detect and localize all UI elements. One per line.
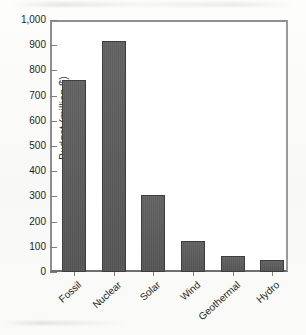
bar xyxy=(141,195,165,272)
y-axis-tick-label: 800 xyxy=(29,64,46,75)
plot-area: Budget (million $) 010020030040050060070… xyxy=(50,20,288,272)
bar-chart-figure: Budget (million $) 010020030040050060070… xyxy=(0,0,306,335)
y-axis-tick-label: 400 xyxy=(29,165,46,176)
x-axis-tick xyxy=(114,272,115,276)
x-axis-tick xyxy=(233,272,234,276)
bar xyxy=(260,260,284,272)
y-axis-tick-label: 100 xyxy=(29,241,46,252)
y-axis-tick: 800 xyxy=(50,70,57,71)
y-axis-tick: 1,000 xyxy=(50,20,57,21)
y-axis-tick: 300 xyxy=(50,196,57,197)
y-axis-tick-label: 600 xyxy=(29,115,46,126)
y-axis-tick: 900 xyxy=(50,45,57,46)
y-axis-tick-label: 1,000 xyxy=(21,14,46,25)
y-axis-tick: 600 xyxy=(50,121,57,122)
y-axis-tick-label: 200 xyxy=(29,216,46,227)
y-axis-tick: 200 xyxy=(50,222,57,223)
bar xyxy=(102,41,126,272)
y-axis-tick: 500 xyxy=(50,146,57,147)
x-axis-tick xyxy=(153,272,154,276)
x-axis-tick xyxy=(74,272,75,276)
y-axis-tick-label: 700 xyxy=(29,90,46,101)
y-axis-tick: 0 xyxy=(50,272,57,273)
y-axis-tick: 100 xyxy=(50,247,57,248)
x-axis-tick xyxy=(193,272,194,276)
bar xyxy=(62,80,86,272)
bar xyxy=(221,256,245,272)
y-axis-tick-label: 900 xyxy=(29,39,46,50)
y-axis-tick: 400 xyxy=(50,171,57,172)
y-axis-tick: 700 xyxy=(50,96,57,97)
bar xyxy=(181,241,205,273)
x-axis-tick xyxy=(272,272,273,276)
y-axis-tick-label: 0 xyxy=(40,266,46,277)
y-axis-tick-label: 300 xyxy=(29,190,46,201)
y-axis-tick-label: 500 xyxy=(29,140,46,151)
